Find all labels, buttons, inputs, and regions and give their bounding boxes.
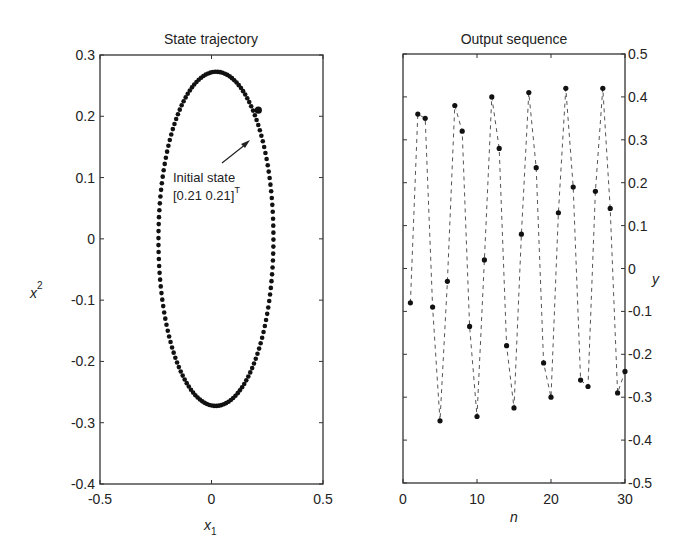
output-point bbox=[608, 206, 613, 211]
output-point bbox=[497, 146, 502, 151]
trajectory-point bbox=[271, 251, 276, 256]
output-point bbox=[622, 369, 627, 374]
trajectory-point bbox=[162, 162, 167, 167]
annotation-vector: [0.21 0.21] bbox=[173, 188, 234, 203]
trajectory-point bbox=[264, 157, 269, 162]
output-point bbox=[563, 86, 568, 91]
trajectory-point bbox=[158, 284, 163, 289]
y-tick-label: -0.5 bbox=[628, 475, 652, 491]
trajectory-point bbox=[157, 271, 162, 276]
y-tick-label: -0.3 bbox=[628, 389, 652, 405]
annotation-arrow bbox=[222, 144, 246, 163]
trajectory-point bbox=[271, 223, 276, 228]
output-point bbox=[437, 418, 442, 423]
trajectory-point bbox=[174, 117, 179, 122]
output-point bbox=[482, 257, 487, 262]
trajectory-point bbox=[248, 370, 253, 375]
output-point bbox=[430, 305, 435, 310]
plot-frame bbox=[403, 54, 625, 483]
trajectory-point bbox=[157, 264, 162, 269]
output-dashed-line bbox=[410, 88, 625, 420]
trajectory-point bbox=[160, 181, 165, 186]
trajectory-point bbox=[269, 189, 274, 194]
trajectory-point bbox=[159, 291, 164, 296]
output-point bbox=[615, 390, 620, 395]
initial-state-marker bbox=[255, 107, 262, 114]
output-point bbox=[423, 116, 428, 121]
trajectory-point bbox=[173, 355, 178, 360]
y-tick-label: 0 bbox=[628, 261, 636, 277]
y-tick-label: -0.4 bbox=[71, 476, 95, 492]
y-tick-label: -0.2 bbox=[628, 346, 652, 362]
trajectory-point bbox=[156, 243, 161, 248]
trajectory-point bbox=[158, 194, 163, 199]
trajectory-point bbox=[263, 324, 268, 329]
trajectory-point bbox=[258, 128, 263, 133]
output-point bbox=[593, 189, 598, 194]
x-axis-ticks: -0.500.5 bbox=[88, 55, 333, 507]
trajectory-point bbox=[269, 196, 274, 201]
y-tick-label: -0.1 bbox=[71, 292, 95, 308]
trajectory-point bbox=[171, 127, 176, 132]
figure: State trajectory 0.30.20.10-0.1-0.2-0.3-… bbox=[0, 0, 691, 554]
output-point bbox=[548, 395, 553, 400]
plot-title: State trajectory bbox=[164, 31, 258, 47]
annotation-superscript: T bbox=[234, 185, 240, 195]
trajectory-point bbox=[271, 230, 276, 235]
y-tick-label: -0.2 bbox=[71, 353, 95, 369]
trajectory-point bbox=[164, 322, 169, 327]
trajectory-point bbox=[261, 139, 266, 144]
x-tick-label: 0.5 bbox=[313, 491, 333, 507]
annotation-line2: [0.21 0.21]T bbox=[173, 185, 240, 203]
y-tick-label: 0.2 bbox=[628, 175, 648, 191]
trajectory-point bbox=[180, 373, 185, 378]
trajectory-point bbox=[156, 236, 161, 241]
trajectory-point bbox=[271, 237, 276, 242]
x-axis-label: x1 bbox=[203, 517, 217, 537]
trajectory-point bbox=[157, 215, 162, 220]
trajectory-point bbox=[258, 341, 263, 346]
trajectory-point bbox=[252, 361, 257, 366]
output-sequence-plot: Output sequence 0.50.40.30.20.10-0.1-0.2… bbox=[399, 31, 660, 525]
trajectory-point bbox=[163, 316, 168, 321]
x-axis-label: n bbox=[510, 509, 518, 525]
trajectory-point bbox=[175, 360, 180, 365]
trajectory-point bbox=[167, 334, 172, 339]
trajectory-point bbox=[246, 374, 251, 379]
trajectory-point bbox=[268, 182, 273, 187]
x-tick-label: 0 bbox=[208, 491, 216, 507]
trajectory-point bbox=[166, 143, 171, 148]
trajectory-point bbox=[265, 163, 270, 168]
output-point bbox=[600, 86, 605, 91]
trajectory-point bbox=[263, 151, 268, 156]
output-point bbox=[460, 129, 465, 134]
trajectory-point bbox=[267, 176, 272, 181]
y-tick-label: 0.5 bbox=[628, 46, 648, 62]
state-trajectory-plot: State trajectory 0.30.20.10-0.1-0.2-0.3-… bbox=[29, 31, 333, 537]
output-series bbox=[408, 86, 628, 424]
output-point bbox=[467, 324, 472, 329]
trajectory-point bbox=[168, 340, 173, 345]
output-point bbox=[534, 165, 539, 170]
y-tick-label: 0.3 bbox=[76, 47, 96, 63]
trajectory-point bbox=[251, 108, 256, 113]
x-tick-label: 30 bbox=[617, 491, 633, 507]
trajectory-point bbox=[270, 265, 275, 270]
trajectory-point bbox=[170, 345, 175, 350]
trajectory-point bbox=[266, 169, 271, 174]
output-point bbox=[489, 94, 494, 99]
y-axis-ticks: 0.30.20.10-0.1-0.2-0.3-0.4 bbox=[71, 47, 323, 492]
trajectory-point bbox=[177, 107, 182, 112]
trajectory-point bbox=[255, 351, 260, 356]
y-tick-label: -0.4 bbox=[628, 432, 652, 448]
y-tick-label: 0.1 bbox=[628, 218, 648, 234]
trajectory-point bbox=[266, 305, 271, 310]
trajectory-point bbox=[261, 330, 266, 335]
trajectory-point bbox=[270, 203, 275, 208]
annotation-line1: Initial state bbox=[173, 170, 235, 185]
output-point bbox=[511, 405, 516, 410]
trajectory-point bbox=[172, 122, 177, 127]
trajectory-point bbox=[270, 272, 275, 277]
trajectory-point bbox=[177, 365, 182, 370]
y-axis-label: y bbox=[651, 271, 660, 287]
